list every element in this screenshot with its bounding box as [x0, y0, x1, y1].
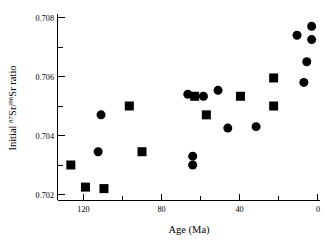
y-axis-minor-ticks — [58, 48, 63, 166]
scatter-plot-figure: 0.708 0.706 0.704 0.702 120 80 40 0 Age … — [0, 0, 330, 241]
x-axis-tick-labels: 120 80 40 0 — [77, 205, 320, 214]
data-point-circle — [214, 86, 223, 95]
data-point-square — [138, 147, 147, 156]
data-point-square — [269, 102, 278, 111]
data-points-layer — [66, 22, 316, 193]
y-axis-title: Initial 87Sr/86Sr ratio — [7, 65, 19, 150]
y-tick-label-3: 0.702 — [36, 191, 54, 200]
x-tick-label-1: 80 — [157, 205, 165, 214]
y-axis-tick-labels: 0.708 0.706 0.704 0.702 — [36, 14, 54, 200]
data-point-circle — [199, 92, 208, 101]
y-tick-label-2: 0.704 — [36, 132, 54, 141]
data-point-square — [81, 183, 90, 192]
x-tick-label-2: 40 — [235, 205, 243, 214]
plot-canvas: 0.708 0.706 0.704 0.702 120 80 40 0 Age … — [0, 0, 330, 241]
data-point-circle — [302, 57, 311, 66]
y-axis-title-suffix: Sr ratio — [7, 65, 18, 96]
data-point-square — [269, 73, 278, 82]
y-axis-title-mid: Sr/ — [7, 104, 18, 116]
data-point-circle — [94, 147, 103, 156]
x-axis-minor-ticks — [123, 196, 279, 201]
y-axis-title-prefix: Initial — [7, 123, 18, 151]
data-point-square — [125, 102, 134, 111]
data-point-square — [190, 92, 199, 101]
data-point-square — [66, 161, 75, 170]
x-tick-label-0: 120 — [77, 205, 89, 214]
data-point-circle — [307, 35, 316, 44]
y-tick-label-0: 0.708 — [36, 14, 54, 23]
data-point-circle — [293, 31, 302, 40]
x-tick-label-3: 0 — [316, 205, 320, 214]
data-point-circle — [223, 124, 232, 133]
data-point-circle — [307, 22, 316, 31]
data-point-circle — [97, 110, 106, 119]
y-tick-label-1: 0.706 — [36, 73, 54, 82]
data-point-square — [99, 184, 108, 193]
x-axis-title: Age (Ma) — [168, 224, 210, 236]
axis-lines — [58, 14, 321, 201]
data-point-circle — [299, 78, 308, 87]
data-point-square — [236, 92, 245, 101]
data-point-square — [202, 110, 211, 119]
data-point-circle — [188, 152, 197, 161]
data-point-circle — [252, 122, 261, 131]
data-point-circle — [188, 161, 197, 170]
